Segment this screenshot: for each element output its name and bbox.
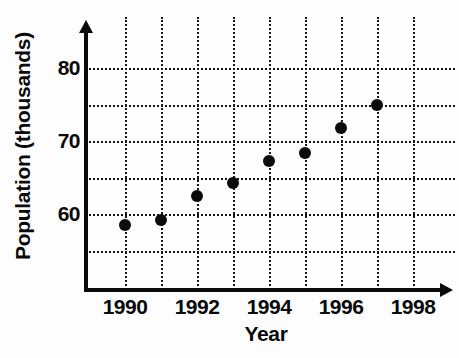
x-axis-line [84, 288, 444, 292]
y-tick-label-group: 607080 [32, 0, 80, 358]
data-point [155, 214, 167, 226]
data-point [119, 219, 131, 231]
y-axis-arrow-icon [79, 20, 93, 33]
y-axis-line [84, 30, 88, 292]
vertical-gridline [377, 17, 379, 290]
x-axis-title: Year [186, 322, 346, 346]
data-point [299, 147, 311, 159]
vertical-gridline [197, 17, 199, 290]
vertical-gridline [413, 17, 415, 290]
x-tick-label: 1990 [85, 296, 165, 317]
x-tick-label: 1996 [301, 296, 381, 317]
y-tick-label: 60 [34, 203, 80, 224]
data-point [263, 155, 275, 167]
vertical-gridline [341, 17, 343, 290]
data-point [371, 99, 383, 111]
vertical-gridline [269, 17, 271, 290]
x-axis-arrow-icon [440, 283, 453, 297]
vertical-gridline [233, 17, 235, 290]
data-point [191, 190, 203, 202]
data-point [227, 177, 239, 189]
y-tick-label: 80 [34, 57, 80, 78]
data-point [335, 122, 347, 134]
x-tick-label: 1992 [157, 296, 237, 317]
scatter-plot-figure: Population (thousands) 607080 1990199219… [0, 0, 459, 358]
x-tick-label: 1994 [229, 296, 309, 317]
x-tick-label: 1998 [373, 296, 453, 317]
vertical-gridline [161, 17, 163, 290]
y-tick-label: 70 [34, 130, 80, 151]
vertical-gridline [125, 17, 127, 290]
